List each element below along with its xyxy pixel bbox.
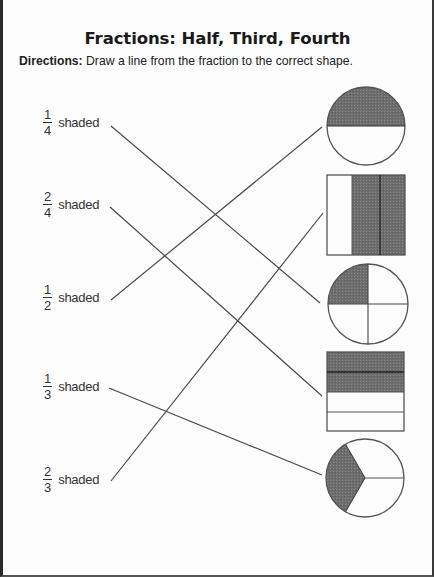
shape-rectangle-thirds[interactable] [327, 175, 405, 255]
shape-rectangle-fourths[interactable] [327, 352, 404, 431]
shape-circle-quarters[interactable] [328, 264, 408, 344]
connection-line-2-3[interactable] [111, 213, 323, 481]
worksheet-drawing [0, 0, 434, 577]
connection-line-2-4[interactable] [110, 207, 322, 396]
connection-line-1-3[interactable] [109, 388, 322, 475]
shape-circle-halves[interactable] [327, 87, 405, 165]
shape-circle-thirds[interactable] [326, 439, 404, 517]
